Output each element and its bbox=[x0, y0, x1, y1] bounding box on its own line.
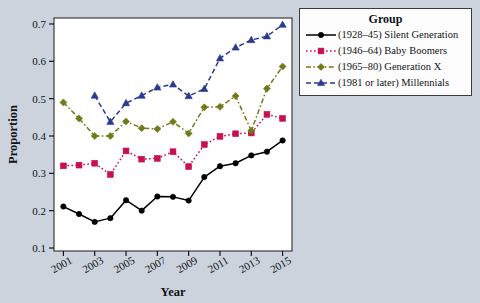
legend-entry-3: (1981 or later) Millennials bbox=[304, 75, 467, 91]
series-marker bbox=[154, 155, 160, 161]
legend-entry-label: (1965–80) Generation X bbox=[338, 61, 441, 73]
plot-area bbox=[54, 18, 292, 251]
series-marker bbox=[217, 133, 223, 139]
legend-marker bbox=[318, 64, 325, 71]
series-marker bbox=[76, 162, 82, 168]
legend-marker bbox=[318, 48, 324, 54]
series-marker bbox=[233, 161, 238, 166]
y-axis-tick-label: 0.5 bbox=[32, 93, 46, 105]
y-axis-tick-label: 0.4 bbox=[32, 130, 46, 142]
chart-legend: Group (1928–45) Silent Generation(1946–6… bbox=[299, 8, 472, 96]
x-axis-tick-label: 2013 bbox=[237, 254, 262, 276]
legend-entry-2: (1965–80) Generation X bbox=[304, 59, 467, 75]
legend-key-triangle-icon bbox=[304, 76, 338, 90]
series-marker bbox=[170, 194, 175, 199]
legend-entry-0: (1928–45) Silent Generation bbox=[304, 27, 467, 43]
series-marker bbox=[61, 204, 66, 209]
series-marker bbox=[201, 142, 207, 148]
series-marker bbox=[264, 111, 270, 117]
series-marker bbox=[107, 172, 113, 178]
series-marker bbox=[92, 219, 97, 224]
x-axis-tick-label: 2011 bbox=[206, 254, 231, 275]
series-marker bbox=[202, 174, 207, 179]
series-marker bbox=[170, 149, 176, 155]
series-marker bbox=[249, 153, 254, 158]
series-marker bbox=[123, 148, 129, 154]
x-axis-tick-label: 2015 bbox=[268, 254, 293, 276]
series-marker bbox=[92, 160, 98, 166]
series-marker bbox=[217, 164, 222, 169]
x-axis-tick-label: 2007 bbox=[143, 254, 168, 276]
legend-key-diamond-icon bbox=[304, 60, 338, 74]
series-marker bbox=[76, 211, 81, 216]
y-axis-tick-label: 0.1 bbox=[32, 242, 46, 254]
legend-entry-label: (1981 or later) Millennials bbox=[338, 77, 449, 89]
series-marker bbox=[186, 198, 191, 203]
legend-entry-label: (1928–45) Silent Generation bbox=[338, 29, 458, 41]
y-axis-title: Proportion bbox=[6, 105, 20, 164]
x-axis-tick-label: 2003 bbox=[80, 254, 105, 276]
series-marker bbox=[186, 164, 192, 170]
series-marker bbox=[155, 194, 160, 199]
series-marker bbox=[264, 149, 269, 154]
legend-title: Group bbox=[304, 12, 467, 26]
series-marker bbox=[60, 163, 66, 169]
y-axis-tick-label: 0.3 bbox=[32, 167, 46, 179]
chart-figure: 0.10.20.30.40.50.60.72001200320052007200… bbox=[0, 0, 480, 303]
series-marker bbox=[280, 138, 285, 143]
legend-entry-list: (1928–45) Silent Generation(1946–64) Bab… bbox=[304, 27, 467, 91]
series-marker bbox=[108, 215, 113, 220]
legend-entry-1: (1946–64) Baby Boomers bbox=[304, 43, 467, 59]
legend-marker bbox=[318, 32, 323, 37]
legend-key-circle-icon bbox=[304, 28, 338, 42]
series-marker bbox=[139, 156, 145, 162]
x-axis-tick-label: 2009 bbox=[174, 254, 199, 276]
y-axis-tick-label: 0.2 bbox=[32, 205, 46, 217]
x-axis-title: Year bbox=[161, 285, 186, 299]
series-marker bbox=[233, 131, 239, 137]
series-marker bbox=[123, 198, 128, 203]
legend-key-square-icon bbox=[304, 44, 338, 58]
series-marker bbox=[280, 116, 286, 122]
y-axis-tick-label: 0.7 bbox=[32, 18, 46, 30]
legend-entry-label: (1946–64) Baby Boomers bbox=[338, 45, 447, 57]
x-axis-tick-label: 2001 bbox=[49, 254, 74, 275]
y-axis-tick-label: 0.6 bbox=[32, 55, 46, 67]
x-axis-tick-label: 2005 bbox=[112, 254, 137, 276]
series-marker bbox=[139, 208, 144, 213]
